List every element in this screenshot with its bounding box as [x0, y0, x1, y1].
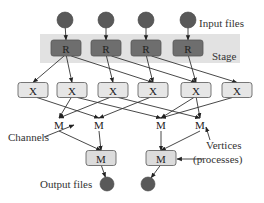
vertices-label: Vertices [206, 139, 241, 151]
channels-label: Channels [8, 131, 49, 143]
x-vertex-label: X [29, 85, 37, 97]
dryad-job-diagram: RRRRXXXXXXMMMMMM Input files Stage Chann… [0, 0, 264, 203]
processes-label: (processes) [193, 153, 243, 166]
edge-M1-out1 [101, 166, 105, 178]
m-vertex: M [86, 151, 116, 166]
x-vertex: X [57, 83, 87, 98]
output-file-node [141, 177, 155, 191]
x-vertex-label: X [109, 85, 117, 97]
x-vertex-label: X [149, 85, 157, 97]
edge-X4-Mi2 [99, 98, 150, 119]
edge-X3-Mi4 [118, 98, 200, 119]
stage-label: Stage [212, 50, 237, 62]
m-vertex-label: M [96, 153, 106, 165]
r-vertex: R [51, 40, 81, 56]
r-vertex: R [173, 40, 203, 56]
r-vertex-label: R [184, 43, 192, 55]
m-vertex-label: M [156, 153, 166, 165]
edge-Mi4-M2 [161, 131, 200, 151]
r-vertex-label: R [142, 43, 150, 55]
x-vertex-label: X [192, 85, 200, 97]
r-vertex-label: R [62, 43, 70, 55]
x-vertex: X [222, 83, 252, 98]
input-file-node [57, 12, 73, 28]
x-vertex: X [18, 83, 48, 98]
r-vertex-label: R [102, 43, 110, 55]
x-vertex: X [181, 83, 211, 98]
m-intermediate-label: M [195, 119, 205, 131]
edge-Mi2-M1 [99, 131, 101, 151]
input-file-node [138, 12, 154, 28]
output-files-label: Output files [40, 178, 92, 190]
x-vertex: X [98, 83, 128, 98]
edge-M2-out2 [151, 166, 160, 178]
edge-Mi1-M1 [59, 131, 101, 151]
r-vertex: R [91, 40, 121, 56]
x-vertex-label: X [68, 85, 76, 97]
x-vertex: X [138, 83, 168, 98]
m-vertex: M [146, 151, 176, 166]
input-files-label: Input files [199, 17, 244, 29]
input-file-node [180, 12, 196, 28]
r-vertex: R [131, 40, 161, 56]
m-intermediate-label: M [156, 119, 166, 131]
m-intermediate-label: M [94, 119, 104, 131]
input-file-node [98, 12, 114, 28]
output-file-node [100, 177, 114, 191]
x-vertex-label: X [233, 85, 241, 97]
